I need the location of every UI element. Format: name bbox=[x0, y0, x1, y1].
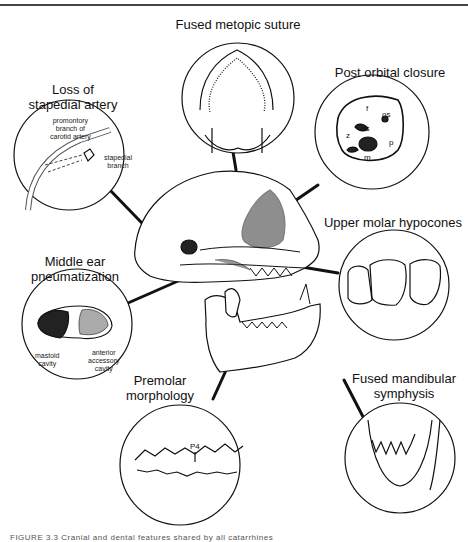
annotation-line: branch bbox=[104, 162, 132, 170]
annotation-line: promontory bbox=[50, 117, 91, 125]
label-middle-ear-pneumatization: Middle ear pneumatization bbox=[20, 254, 130, 284]
label-upper-molar-hypocones: Upper molar hypocones bbox=[322, 215, 464, 230]
annotation-line: stapedial bbox=[104, 154, 132, 162]
annotation-line: mastoid bbox=[35, 352, 60, 360]
annotation-line: anterior bbox=[88, 349, 120, 357]
annotation-line: branch of bbox=[50, 125, 91, 133]
label-tooth-p4: P4 bbox=[190, 442, 200, 451]
label-fused-metopic-suture: Fused metopic suture bbox=[173, 17, 303, 32]
annotation-line: cavity bbox=[35, 360, 60, 368]
label-line-1: Middle ear bbox=[20, 254, 130, 269]
label-line-1: Fused mandibular bbox=[345, 371, 463, 386]
callout-circle-premolar bbox=[120, 405, 243, 525]
label-line-2: stapedial artery bbox=[18, 97, 128, 112]
figure-caption: FIGURE 3.3 Cranial and dental features s… bbox=[10, 533, 273, 542]
callout-circle-hypocones bbox=[339, 230, 449, 340]
label-line-2: pneumatization bbox=[20, 269, 130, 284]
label-post-orbital-closure: Post orbital closure bbox=[330, 65, 450, 80]
annotation-line: cavity bbox=[88, 365, 120, 373]
label-line-1: Loss of bbox=[18, 82, 128, 97]
label-part-os: os bbox=[382, 110, 390, 119]
label-line-1: Premolar bbox=[110, 373, 210, 388]
label-part-f: f bbox=[366, 104, 368, 113]
annotation-line: accessory bbox=[88, 357, 120, 365]
annotation-anterior-accessory-cavity: anterior accessory cavity bbox=[88, 349, 120, 373]
annotation-promontory-branch: promontory branch of carotid artery bbox=[50, 117, 91, 141]
callout-circle-metopic bbox=[182, 43, 294, 153]
annotation-line: carotid artery bbox=[50, 133, 91, 141]
annotation-mastoid-cavity: mastoid cavity bbox=[35, 352, 60, 368]
label-fused-mandibular-symphysis: Fused mandibular symphysis bbox=[345, 371, 463, 401]
label-line-2: morphology bbox=[110, 388, 210, 403]
callout-circle-postorbital bbox=[315, 75, 429, 189]
label-premolar-morphology: Premolar morphology bbox=[110, 373, 210, 403]
label-loss-of-stapedial-artery: Loss of stapedial artery bbox=[18, 82, 128, 112]
callout-circle-mandibular bbox=[345, 403, 455, 513]
label-part-m: m bbox=[364, 153, 371, 162]
label-line-2: symphysis bbox=[345, 386, 463, 401]
skull-drawing bbox=[135, 171, 321, 372]
label-part-as: as bbox=[361, 124, 369, 133]
label-part-p: p bbox=[389, 138, 393, 147]
annotation-stapedial-branch: stapedial branch bbox=[104, 154, 132, 170]
label-part-z: z bbox=[346, 131, 350, 140]
